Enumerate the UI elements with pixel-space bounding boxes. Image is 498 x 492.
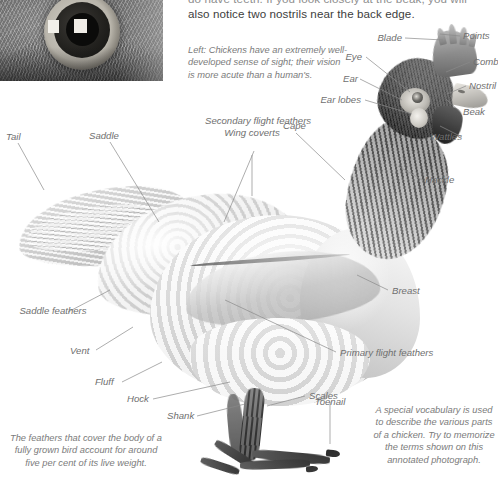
leader-ear-lobes (365, 100, 412, 114)
leader-scales (267, 396, 305, 406)
label-saddle-feathers: Saddle feathers (16, 305, 90, 317)
label-primary-flight-feathers: Primary flight feathers (340, 347, 433, 359)
label-saddle: Saddle (89, 130, 119, 142)
label-hock: Hock (127, 393, 149, 405)
leader-blade (405, 38, 443, 40)
leader-vent (96, 327, 133, 350)
label-points: Points (463, 30, 490, 42)
label-hackle: Hackle (425, 174, 454, 186)
label-eye: Eye (310, 51, 362, 63)
leader-ear (360, 79, 402, 100)
leader-points (440, 34, 460, 36)
label-nostril: Nostril (469, 80, 496, 92)
leader-eye (366, 57, 410, 92)
leader-nostril (447, 86, 466, 94)
leader-cape (296, 133, 345, 180)
label-fluff: Fluff (95, 376, 114, 388)
label-vent: Vent (70, 345, 89, 357)
leader-tail (18, 143, 44, 190)
leader-secondary (224, 151, 254, 222)
leader-hock (153, 382, 230, 399)
label-secondary-flight-feathers: Secondary flight feathers (205, 115, 303, 127)
annotated-photograph-page: do have teeth. If you look closely at th… (0, 0, 498, 492)
label-wing-coverts: Wing coverts (222, 127, 282, 139)
leader-beak (446, 99, 460, 112)
label-shank: Shank (167, 410, 194, 422)
body-text-line-2: also notice two nostrils near the back e… (188, 6, 415, 21)
leader-fluff (122, 362, 162, 382)
label-ear: Ear (308, 73, 358, 85)
label-ear-lobes: Ear lobes (285, 94, 361, 106)
label-breast: Breast (392, 285, 420, 297)
leader-saddle (110, 142, 159, 222)
leader-shank (197, 404, 245, 416)
caption-bottom-left: The feathers that cover the body of a fu… (8, 432, 164, 469)
label-beak: Beak (463, 106, 485, 118)
leader-hackle (398, 166, 422, 180)
caption-bottom-right: A special vocabulary is used to describe… (372, 404, 496, 466)
leader-breast (357, 275, 388, 290)
label-tail: Tail (6, 131, 21, 143)
label-toenail: Toenail (302, 396, 358, 408)
label-blade: Blade (330, 32, 402, 44)
leader-primary (225, 300, 336, 352)
label-comb: Comb (473, 56, 498, 68)
leader-comb (446, 62, 470, 72)
label-wattles: Wattles (400, 131, 462, 143)
